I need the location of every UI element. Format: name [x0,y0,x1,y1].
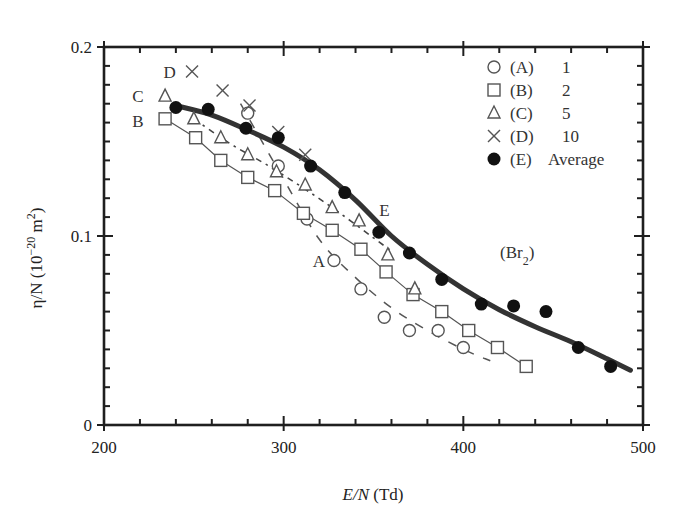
marker-D-icon [217,84,229,96]
x-tick-label: 500 [630,438,656,457]
marker-A-icon [355,283,367,295]
marker-C-icon [242,148,254,160]
marker-E-icon [169,101,182,114]
curve-labels: ABCDE [132,63,389,271]
marker-E-icon [604,360,617,373]
y-tick-label: 0 [84,416,93,435]
marker-B-icon [190,132,202,144]
series-curves [165,104,630,370]
y-axis-label: η/N (10−20 m2) [24,208,46,309]
marker-C-icon [215,131,227,143]
y-tick-label: 0.1 [71,227,92,246]
curve-label-A: A [313,252,326,271]
x-axis-label: E/N (Td) [342,485,404,504]
curve-label-C: C [132,87,143,106]
legend-key-label: (C) [510,104,533,123]
marker-E-icon [507,299,520,312]
marker-A-icon [328,255,340,267]
marker-D-icon [186,66,198,78]
legend-marker-B-icon [488,84,500,96]
legend-value-label: 2 [562,81,571,100]
marker-B-icon [326,224,338,236]
legend-value-label: Average [548,150,604,169]
marker-E-icon [272,131,285,144]
marker-B-icon [215,154,227,166]
marker-B-icon [269,185,281,197]
marker-E-icon [372,226,385,239]
curve-label-E: E [379,201,389,220]
x-tick-label: 200 [91,438,117,457]
curve-label-D: D [164,63,176,82]
marker-A-icon [403,325,415,337]
legend-key-label: (E) [510,150,532,169]
legend-key-label: (D) [510,127,534,146]
marker-A-icon [432,325,444,337]
marker-B-icon [159,113,171,125]
marker-B-icon [463,325,475,337]
marker-E-icon [338,186,351,199]
chart: 20030040050000.10.2 ABCDE E/N (Td) η/N (… [0,0,693,514]
legend-marker-D-icon [488,130,500,142]
marker-A-icon [378,311,390,323]
marker-B-icon [355,243,367,255]
marker-B-icon [436,306,448,318]
marker-E-icon [403,247,416,260]
legend-item-B: (B)2 [488,81,571,100]
marker-E-icon [475,298,488,311]
curve-label-B: B [132,112,143,131]
marker-B-icon [242,171,254,183]
gas-annotation: (Br2) [500,243,534,268]
marker-B-icon [491,342,503,354]
marker-E-icon [239,122,252,135]
marker-E-icon [539,305,552,318]
legend-item-A: (A)1 [488,58,571,77]
marker-B-icon [380,266,392,278]
legend-key-label: (A) [510,58,534,77]
legend-key-label: (B) [510,81,533,100]
marker-E-icon [435,273,448,286]
marker-C-icon [382,248,394,260]
marker-C-icon [299,178,311,190]
legend: (A)1(B)2(C)5(D)10(E)Average [488,58,605,169]
marker-B-icon [297,207,309,219]
marker-C-icon [353,214,365,226]
legend-item-C: (C)5 [488,104,571,123]
legend-value-label: 1 [562,58,571,77]
marker-C-icon [188,112,200,124]
legend-marker-C-icon [488,106,500,118]
legend-marker-A-icon [488,61,500,73]
marker-C-icon [326,201,338,213]
marker-E-icon [572,341,585,354]
marker-C-icon [159,89,171,101]
marker-E-icon [202,103,215,116]
legend-marker-E-icon [488,153,501,166]
legend-item-D: (D)10 [488,127,579,146]
marker-A-icon [457,342,469,354]
marker-E-icon [304,160,317,173]
legend-value-label: 10 [562,127,579,146]
y-tick-label: 0.2 [71,38,92,57]
marker-B-icon [520,360,532,372]
x-tick-label: 400 [451,438,477,457]
x-tick-label: 300 [271,438,297,457]
legend-item-E: (E)Average [488,150,605,169]
legend-value-label: 5 [562,104,571,123]
